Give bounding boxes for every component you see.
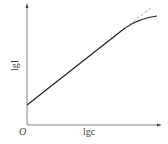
- chart-canvas: [0, 0, 168, 144]
- y-axis-label: lgI: [9, 56, 20, 76]
- x-axis-label: lgc: [83, 126, 95, 137]
- y-axis: [26, 3, 29, 125]
- data-curve: [27, 16, 157, 105]
- origin-label: O: [19, 126, 26, 137]
